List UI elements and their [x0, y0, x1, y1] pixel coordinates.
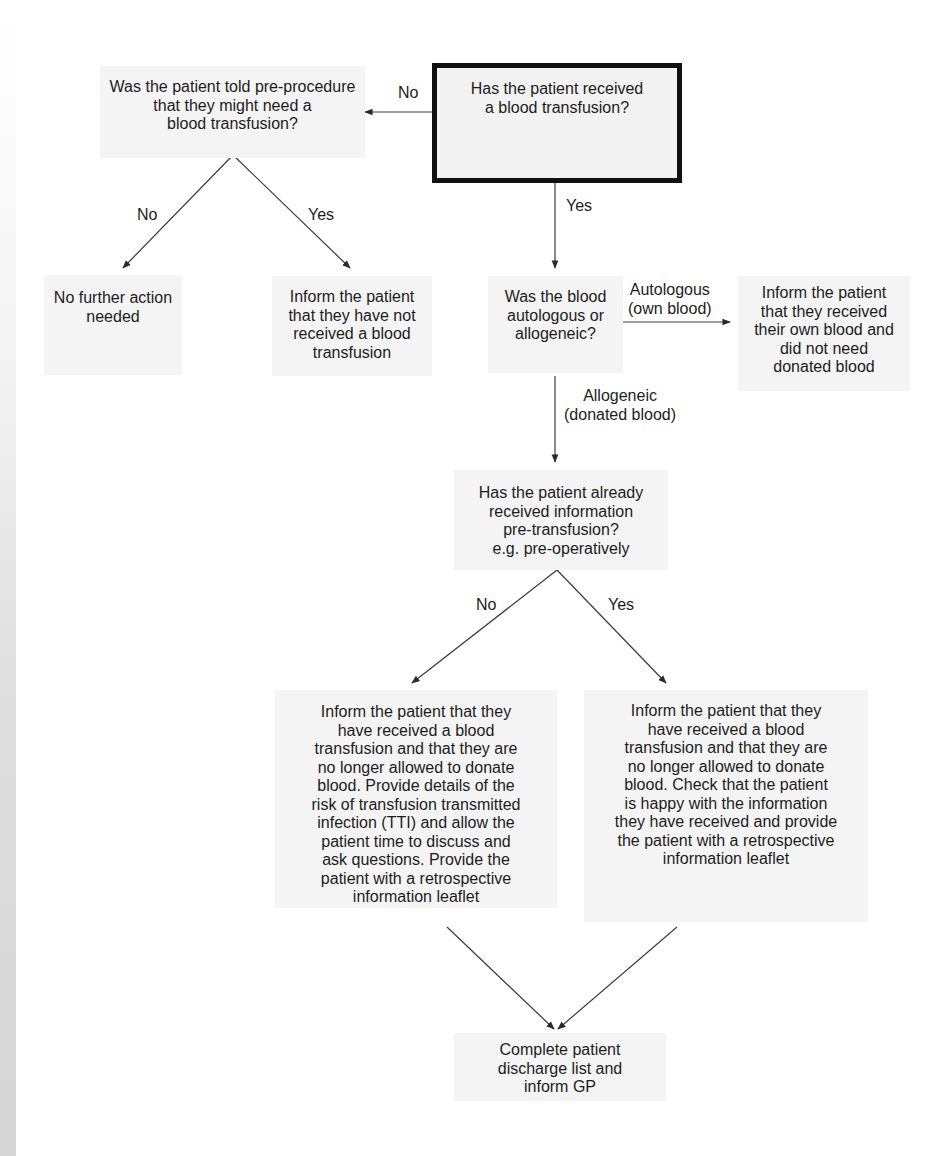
node-inform-not-received: Inform the patient that they have not re… — [272, 276, 432, 376]
node-discharge-inform-gp: Complete patient discharge list and info… — [454, 1033, 666, 1101]
node-inform-tti-text: Inform the patient that they have receiv… — [312, 703, 521, 907]
node-inform-own-blood: Inform the patient that they received th… — [738, 276, 910, 391]
edge-label-info-no: No — [476, 596, 496, 615]
edge-label-start-yes: Yes — [566, 197, 592, 216]
node-start: Has the patient received a blood transfu… — [432, 63, 682, 183]
edge-check-to-discharge — [558, 927, 677, 1029]
edge-tti-to-discharge — [447, 927, 554, 1029]
node-autologous-or-allogeneic: Was the blood autologous or allogeneic? — [488, 276, 623, 373]
node-no-further-action-text: No further action needed — [54, 289, 172, 326]
node-inform-own-blood-text: Inform the patient that they received th… — [754, 284, 894, 377]
node-inform-check-text: Inform the patient that they have receiv… — [615, 702, 837, 869]
node-no-further-action: No further action needed — [44, 275, 182, 375]
node-already-received-info: Has the patient already received informa… — [454, 470, 668, 570]
node-start-text: Has the patient received a blood transfu… — [471, 80, 644, 117]
node-inform-check: Inform the patient that they have receiv… — [584, 690, 868, 922]
node-discharge-inform-gp-text: Complete patient discharge list and info… — [498, 1041, 623, 1097]
edge-label-autologous: Autologous (own blood) — [628, 281, 712, 318]
node-inform-tti: Inform the patient that they have receiv… — [275, 690, 557, 908]
edge-label-told-yes: Yes — [308, 206, 334, 225]
node-already-received-info-text: Has the patient already received informa… — [479, 484, 644, 558]
edge-label-told-no: No — [137, 206, 157, 225]
edge-label-allogeneic: Allogeneic (donated blood) — [564, 387, 676, 424]
edge-label-info-yes: Yes — [608, 596, 634, 615]
node-autologous-or-allogeneic-text: Was the blood autologous or allogeneic? — [505, 288, 607, 344]
node-told-pre-procedure-text: Was the patient told pre-procedure that … — [110, 78, 356, 134]
edge-label-start-no: No — [398, 84, 418, 103]
node-told-pre-procedure: Was the patient told pre-procedure that … — [100, 66, 365, 158]
node-inform-not-received-text: Inform the patient that they have not re… — [288, 288, 415, 362]
edge-info-to-tti — [412, 570, 557, 683]
edge-info-to-check — [557, 570, 666, 683]
